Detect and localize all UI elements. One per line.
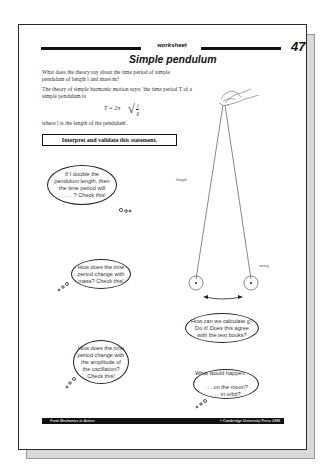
hand-icon bbox=[219, 89, 259, 106]
bob-right-center bbox=[250, 282, 252, 284]
header-rule-right bbox=[201, 47, 281, 50]
page-number: 47 bbox=[291, 39, 305, 54]
string-right bbox=[225, 105, 251, 279]
formula-lhs: T = 2π bbox=[104, 105, 120, 111]
theory-statement: The theory of simple harmonic motion say… bbox=[42, 86, 192, 100]
worksheet-page: worksheet 47 Simple pendulum What does t… bbox=[18, 24, 307, 450]
thought-bubble-moon-orbit: What would happen . . . . . . . . on the… bbox=[193, 369, 259, 399]
bubble-3-dots bbox=[66, 378, 75, 388]
thought-bubble-amplitude: How does the time period change with the… bbox=[73, 340, 129, 384]
worksheet-title: Simple pendulum bbox=[129, 53, 249, 65]
sqrt-symbol: √ bbox=[128, 101, 135, 116]
bob-left-center bbox=[195, 282, 197, 284]
bubble-text: How does the time period change with the… bbox=[78, 345, 125, 380]
string-label: string bbox=[259, 263, 269, 268]
header-rule-left bbox=[41, 47, 141, 50]
bubble-1-dots bbox=[119, 208, 131, 212]
bubble-text: How does the time period change with mas… bbox=[78, 264, 125, 285]
bubble-text: If I double the pendulum length, then th… bbox=[54, 171, 109, 199]
footer-source: From Mechanics in Action bbox=[50, 418, 95, 424]
formula-definition: where l is the length of the pendulum'. bbox=[42, 120, 192, 127]
worksheet-label: worksheet bbox=[144, 42, 200, 48]
length-label: length bbox=[176, 177, 187, 182]
bubble-text: How can we calculate g? Do it! Does this… bbox=[191, 318, 253, 339]
swing-arrow-right-head bbox=[238, 295, 243, 299]
task-statement-box: Interpret and validate this statement. bbox=[42, 134, 177, 146]
formula-fraction: l g bbox=[136, 103, 139, 116]
bubble-2-dots bbox=[58, 283, 68, 291]
formula-numerator: l bbox=[136, 103, 139, 110]
thought-bubble-length: If I double the pendulum length, then th… bbox=[47, 165, 117, 205]
bubble-text: What would happen . . . . . . . . on the… bbox=[194, 370, 258, 398]
bubble-5-dots bbox=[196, 400, 206, 408]
swing-arrow bbox=[205, 297, 241, 299]
bob-left bbox=[189, 276, 203, 290]
intro-question: What does the theory say about the time … bbox=[42, 69, 192, 83]
period-formula: T = 2π √ l g bbox=[104, 101, 139, 117]
worksheet-header: worksheet 47 bbox=[41, 39, 293, 53]
footer-copyright: © Cambridge University Press 1998 bbox=[219, 418, 280, 424]
thought-bubble-calculate-g: How can we calculate g? Do it! Does this… bbox=[185, 313, 259, 343]
swing-arrow-left-head bbox=[203, 295, 208, 299]
thought-bubble-mass: How does the time period change with mas… bbox=[71, 259, 131, 289]
footer-bar: From Mechanics in Action © Cambridge Uni… bbox=[42, 418, 284, 424]
string-left bbox=[196, 105, 223, 279]
formula-denominator: g bbox=[136, 110, 139, 116]
bob-right bbox=[244, 276, 258, 290]
